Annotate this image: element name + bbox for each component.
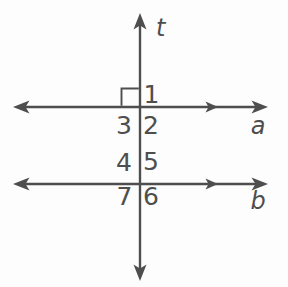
angle-label-6: 6 [143,182,159,211]
angle-label-3: 3 [116,111,132,140]
label-line-b: b [250,187,265,215]
angle-label-2: 2 [143,111,159,140]
label-line-a: a [251,112,266,140]
geometry-diagram: t a b 1 3 2 4 5 7 6 [0,0,288,287]
angle-label-5: 5 [143,147,159,176]
right-angle-mark [122,89,139,106]
angle-label-4: 4 [116,148,132,177]
angle-label-1: 1 [144,80,160,109]
angle-label-7: 7 [117,182,133,211]
diagram-canvas: t a b 1 3 2 4 5 7 6 [0,0,288,287]
label-transversal-t: t [156,14,167,42]
